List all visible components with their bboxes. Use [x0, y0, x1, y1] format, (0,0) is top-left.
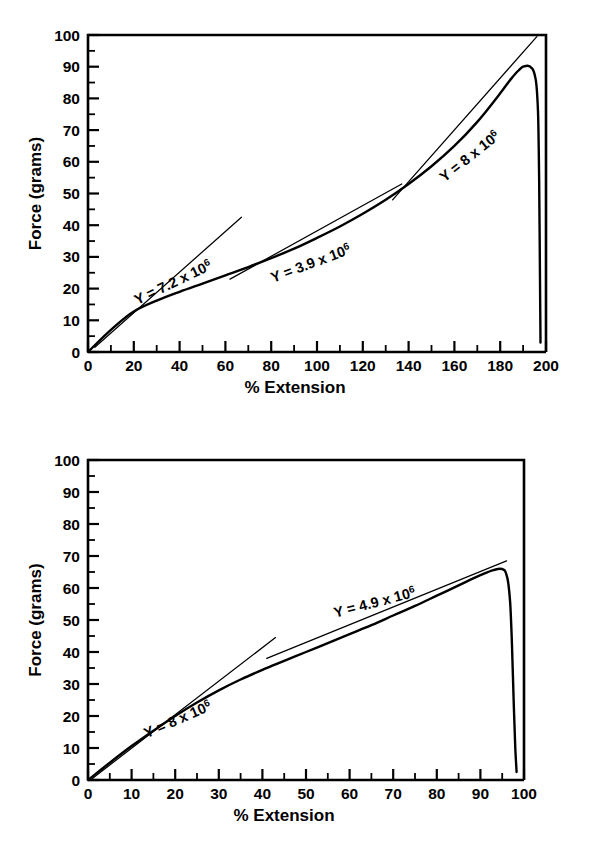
y-tick-label: 50: [63, 185, 80, 202]
y-tick-label: 70: [63, 548, 80, 565]
lower-force-extension-chart: 0102030405060708090100010203040506070809…: [0, 420, 589, 845]
y-tick-label: 30: [63, 676, 80, 693]
x-tick-label: 100: [511, 785, 537, 802]
y-tick-label: 100: [54, 452, 80, 469]
modulus-label-2-tangent-line: [267, 561, 507, 659]
modulus-label-3: Y = 8 x 106: [436, 127, 503, 185]
y-axis-title: Force (grams): [26, 137, 45, 250]
y-tick-label: 100: [54, 27, 80, 44]
y-tick-label: 30: [63, 248, 80, 265]
x-tick-label: 120: [350, 357, 376, 374]
y-tick-label: 20: [63, 280, 80, 297]
y-tick-label: 10: [63, 740, 80, 757]
y-tick-label: 10: [63, 312, 80, 329]
x-tick-label: 160: [441, 357, 467, 374]
y-tick-label: 40: [63, 217, 80, 234]
x-tick-label: 0: [84, 357, 93, 374]
modulus-label-1: Y = 7.2 x 106: [131, 256, 214, 308]
x-tick-label: 60: [341, 785, 358, 802]
x-tick-label: 100: [304, 357, 330, 374]
y-tick-label: 20: [63, 708, 80, 725]
modulus-label-2: Y = 3.9 x 106: [268, 240, 353, 285]
upper-force-extension-chart: 0102030405060708090100020406080100120140…: [0, 0, 589, 420]
x-tick-label: 20: [167, 785, 184, 802]
y-tick-label: 60: [63, 153, 80, 170]
x-tick-label: 0: [84, 785, 93, 802]
x-tick-label: 40: [171, 357, 188, 374]
lower-chart-canvas: 0102030405060708090100010203040506070809…: [0, 420, 589, 845]
x-tick-label: 50: [297, 785, 314, 802]
y-tick-label: 70: [63, 122, 80, 139]
y-tick-label: 80: [63, 516, 80, 533]
y-axis-title: Force (grams): [26, 563, 45, 676]
y-tick-label: 90: [63, 58, 80, 75]
plot-frame: [88, 35, 546, 352]
x-axis-title: % Extension: [244, 378, 345, 397]
x-axis-title: % Extension: [233, 806, 334, 825]
x-tick-label: 90: [472, 785, 489, 802]
y-tick-label: 50: [63, 612, 80, 629]
x-tick-label: 140: [396, 357, 422, 374]
x-tick-label: 70: [385, 785, 402, 802]
modulus-label-3-tangent-line: [393, 37, 537, 200]
x-tick-label: 40: [254, 785, 271, 802]
curve-force-extension-curve: [88, 569, 517, 780]
y-tick-label: 60: [63, 580, 80, 597]
upper-chart-canvas: 0102030405060708090100020406080100120140…: [0, 0, 589, 420]
y-tick-label: 40: [63, 644, 80, 661]
x-tick-label: 80: [263, 357, 280, 374]
plot-area: 0102030405060708090100010203040506070809…: [26, 452, 537, 826]
modulus-label-1: Y = 8 x 106: [141, 697, 214, 741]
x-tick-label: 80: [428, 785, 445, 802]
x-tick-label: 180: [487, 357, 513, 374]
y-tick-label: 0: [71, 772, 80, 789]
y-tick-label: 0: [71, 344, 80, 361]
y-tick-label: 80: [63, 90, 80, 107]
y-tick-label: 90: [63, 484, 80, 501]
x-tick-label: 60: [217, 357, 234, 374]
plot-area: 0102030405060708090100020406080100120140…: [26, 27, 559, 398]
x-tick-label: 200: [533, 357, 559, 374]
x-tick-label: 20: [125, 357, 142, 374]
x-tick-label: 30: [210, 785, 227, 802]
x-tick-label: 10: [123, 785, 140, 802]
